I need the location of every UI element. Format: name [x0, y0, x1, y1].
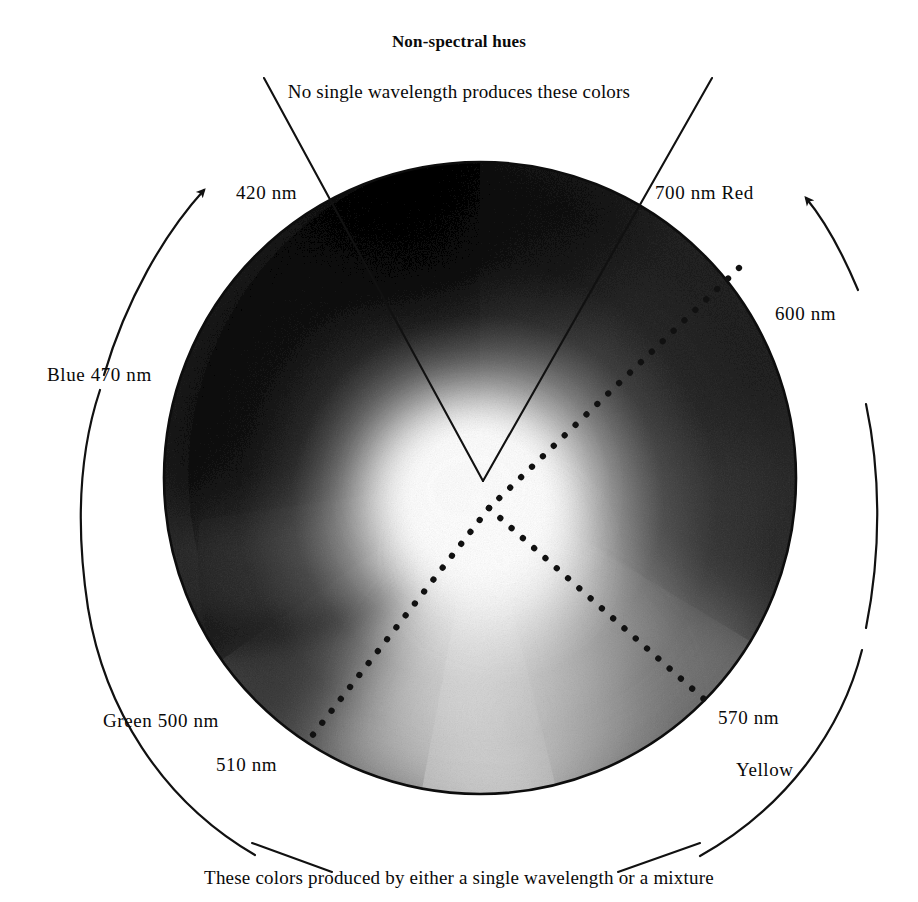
figure-caption: These colors produced by either a single… [204, 867, 714, 888]
color-wheel-figure: Non-spectral hues No single wavelength p… [0, 0, 918, 902]
label-blue-470nm: Blue 470 nm [47, 364, 152, 385]
label-700nm-red: 700 nm Red [655, 182, 754, 203]
non-spectral-note: No single wavelength produces these colo… [288, 81, 630, 102]
label-570nm: 570 nm [718, 707, 779, 728]
label-420nm: 420 nm [236, 182, 297, 203]
label-510nm: 510 nm [216, 754, 277, 775]
label-green-500nm: Green 500 nm [103, 710, 219, 731]
label-yellow: Yellow [736, 759, 794, 780]
label-600nm: 600 nm [775, 303, 836, 324]
figure-title: Non-spectral hues [392, 32, 526, 51]
